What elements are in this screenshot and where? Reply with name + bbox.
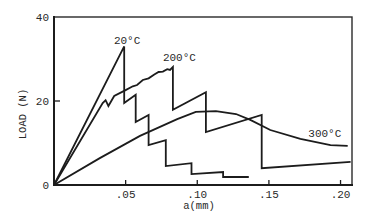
x-tick-label: .05 (116, 189, 136, 201)
annotation-20c: 20°C (114, 35, 141, 47)
annotation-300c: 300°C (308, 128, 341, 140)
x-tick-label: .15 (259, 189, 279, 201)
chart-background (0, 0, 372, 222)
x-tick-label: .20 (331, 189, 351, 201)
annotation-200c: 200°C (163, 52, 196, 64)
y-tick-label: 20 (36, 96, 49, 108)
x-axis-label: a(mm) (183, 200, 215, 212)
load-vs-crack-length-chart: .05.10.15.2002040 20°C 200°C 300°C a(mm)… (0, 0, 372, 222)
y-tick-label: 40 (36, 12, 49, 24)
y-tick-label: 0 (42, 180, 49, 192)
y-axis-label: LOAD (N) (17, 89, 29, 139)
